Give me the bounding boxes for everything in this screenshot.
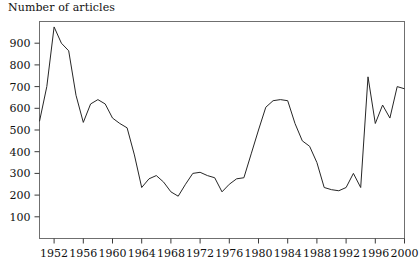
x-tick-label: 1964 <box>128 247 156 260</box>
x-axis-tick-labels: 1952195619601964196819721976198019841988… <box>40 247 418 260</box>
y-axis-ticks <box>35 43 40 217</box>
y-tick-label: 500 <box>10 124 31 137</box>
y-tick-label: 700 <box>10 81 31 94</box>
figure-container: Number of articles 100200300400500600700… <box>0 0 420 273</box>
y-tick-label: 300 <box>10 167 31 180</box>
x-tick-label: 1956 <box>69 247 97 260</box>
y-tick-label: 400 <box>10 146 31 159</box>
data-series-group <box>40 27 405 196</box>
series-line-number-of-articles <box>40 27 405 196</box>
x-tick-label: 1988 <box>303 247 331 260</box>
x-tick-label: 1976 <box>215 247 243 260</box>
y-tick-label: 600 <box>10 102 31 115</box>
x-tick-label: 1980 <box>245 247 273 260</box>
y-tick-label: 100 <box>10 211 31 224</box>
x-tick-label: 1992 <box>332 247 360 260</box>
x-tick-label: 1968 <box>157 247 185 260</box>
y-tick-label: 200 <box>10 189 31 202</box>
x-tick-label: 1996 <box>361 247 389 260</box>
x-tick-label: 1960 <box>99 247 127 260</box>
x-axis-ticks <box>54 239 404 244</box>
y-tick-label: 900 <box>10 37 31 50</box>
y-axis-tick-labels: 100200300400500600700800900 <box>10 37 31 224</box>
x-tick-label: 2000 <box>391 247 419 260</box>
x-tick-label: 1984 <box>274 247 302 260</box>
line-chart-plot: 100200300400500600700800900 195219561960… <box>0 0 420 273</box>
plot-frame <box>40 22 405 239</box>
x-tick-label: 1972 <box>186 247 214 260</box>
y-tick-label: 800 <box>10 59 31 72</box>
x-tick-label: 1952 <box>40 247 68 260</box>
